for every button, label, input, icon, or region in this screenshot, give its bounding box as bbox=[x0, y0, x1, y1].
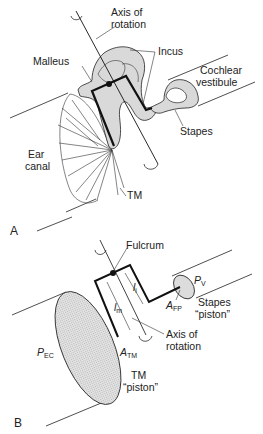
panel-label-a: A bbox=[10, 224, 18, 238]
label-cochlear-2: vestibule bbox=[196, 76, 238, 88]
panel-b: Fulcrum PV AFP Stapes “piston” lm li Axi… bbox=[12, 217, 252, 430]
rotation-arrow-icon bbox=[95, 250, 106, 255]
fulcrum-dot bbox=[110, 270, 116, 276]
label-li: li bbox=[133, 281, 137, 294]
label-axis-of-rotation-2: rotation bbox=[111, 18, 146, 30]
lm-arrow bbox=[107, 282, 130, 330]
canal-lower-line bbox=[66, 199, 96, 212]
rotation-arrow-icon bbox=[139, 336, 152, 341]
label-tm-piston-1: TM bbox=[131, 369, 146, 381]
label-axis-of-rotation-1: Axis of bbox=[111, 6, 143, 18]
label-axis-rotation-b-1: Axis of bbox=[166, 328, 198, 340]
label-stapes-piston-2: “piston” bbox=[195, 308, 231, 320]
rotation-arrow-icon bbox=[144, 164, 158, 169]
label-stapes: Stapes bbox=[180, 125, 213, 137]
label-pec: PEC bbox=[37, 346, 54, 359]
label-tm-piston-2: “piston” bbox=[123, 381, 159, 393]
label-stapes-piston-1: Stapes bbox=[198, 296, 231, 308]
pivot-dot bbox=[106, 81, 112, 87]
label-cochlear-1: Cochlear bbox=[200, 64, 243, 76]
label-afp: AFP bbox=[165, 299, 182, 312]
canal-upper-line bbox=[10, 93, 68, 118]
panel-label-b: B bbox=[14, 416, 22, 430]
label-pv: PV bbox=[194, 274, 206, 287]
label-tm: TM bbox=[127, 189, 142, 201]
label-atm: ATM bbox=[119, 346, 137, 359]
label-axis-rotation-b-2: rotation bbox=[166, 340, 201, 352]
label-incus: Incus bbox=[158, 45, 183, 57]
label-lm: lm bbox=[114, 301, 122, 314]
label-fulcrum: Fulcrum bbox=[126, 239, 164, 251]
label-malleus: Malleus bbox=[33, 55, 69, 67]
panel-a: Axis of rotation Incus Malleus Cochlear … bbox=[10, 6, 255, 238]
label-ear-canal-2: canal bbox=[25, 160, 50, 172]
label-ear-canal-1: Ear bbox=[28, 148, 45, 160]
middle-ear-lever-diagram: Axis of rotation Incus Malleus Cochlear … bbox=[0, 0, 263, 434]
